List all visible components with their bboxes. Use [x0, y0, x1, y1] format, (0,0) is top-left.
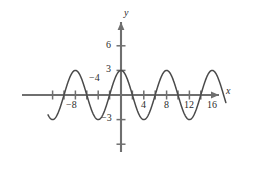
- y-axis-label: y: [124, 8, 128, 18]
- x-tick-label-4: 4: [141, 100, 146, 110]
- x-tick-label-16: 16: [207, 100, 217, 110]
- x-axis-label: x: [226, 86, 230, 96]
- plot-canvas: [0, 0, 256, 171]
- x-tick-label-neg8: −8: [66, 100, 77, 110]
- y-tick-label-neg3: −3: [101, 113, 112, 123]
- x-tick-label-8: 8: [164, 100, 169, 110]
- x-axis-arrowhead: [211, 92, 219, 99]
- y-tick-label-6: 6: [106, 40, 111, 50]
- y-axis-arrowhead: [118, 22, 125, 30]
- x-tick-label-neg4: −4: [89, 73, 100, 83]
- x-tick-label-12: 12: [184, 100, 194, 110]
- y-tick-label-3: 3: [106, 64, 111, 74]
- graph-figure: x y −8 −4 4 8 12 16 6 3 −3: [0, 0, 256, 171]
